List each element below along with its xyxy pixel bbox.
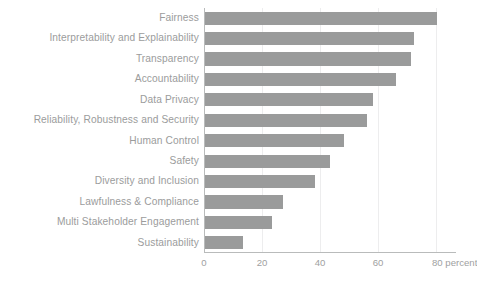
category-label: Transparency xyxy=(0,49,199,69)
category-label: Interpretability and Explainability xyxy=(0,28,199,48)
x-axis-tick-label-with-unit: 80 percent xyxy=(432,257,477,268)
bar-row xyxy=(204,233,448,253)
x-axis-tick-label: 40 xyxy=(315,257,326,268)
bar-row xyxy=(204,28,448,48)
bar-row xyxy=(204,131,448,151)
x-axis-tick-label: 0 xyxy=(201,257,206,268)
x-axis-line xyxy=(204,252,456,253)
category-label: Lawfulness & Compliance xyxy=(0,192,199,212)
y-axis-category-labels: FairnessInterpretability and Explainabil… xyxy=(0,8,199,253)
bar xyxy=(205,114,367,127)
bar xyxy=(205,195,283,208)
category-label: Safety xyxy=(0,151,199,171)
bar-row xyxy=(204,90,448,110)
bar xyxy=(205,236,243,249)
category-label: Accountability xyxy=(0,69,199,89)
bar-row xyxy=(204,49,448,69)
bar xyxy=(205,216,272,229)
bar-row xyxy=(204,171,448,191)
bar-row xyxy=(204,110,448,130)
bar xyxy=(205,73,396,86)
bar-row xyxy=(204,69,448,89)
category-label: Diversity and Inclusion xyxy=(0,171,199,191)
category-label: Human Control xyxy=(0,131,199,151)
plot-area xyxy=(204,8,448,253)
category-label: Sustainability xyxy=(0,233,199,253)
bar-row xyxy=(204,212,448,232)
bar xyxy=(205,175,315,188)
bar xyxy=(205,93,373,106)
bar xyxy=(205,155,330,168)
bar-row xyxy=(204,192,448,212)
bar xyxy=(205,32,414,45)
x-axis-tick-label: 60 xyxy=(373,257,384,268)
category-label: Reliability, Robustness and Security xyxy=(0,110,199,130)
x-axis-tick-label: 20 xyxy=(257,257,268,268)
category-label: Fairness xyxy=(0,8,199,28)
category-label: Data Privacy xyxy=(0,90,199,110)
bar-row xyxy=(204,151,448,171)
category-label: Multi Stakeholder Engagement xyxy=(0,212,199,232)
bar xyxy=(205,12,437,25)
bar xyxy=(205,134,344,147)
bar-row xyxy=(204,8,448,28)
bar xyxy=(205,52,411,65)
